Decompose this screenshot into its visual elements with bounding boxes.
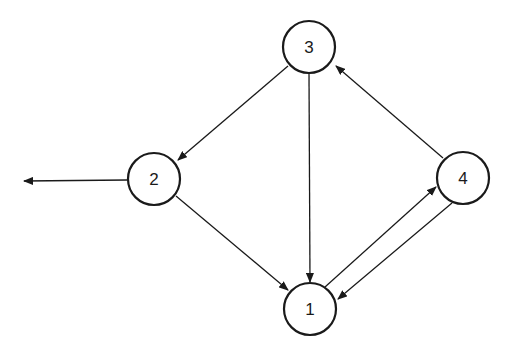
edge-4-to-1 (338, 203, 452, 299)
node-2: 2 (128, 153, 180, 205)
node-4: 4 (437, 152, 489, 204)
node-4-label: 4 (458, 169, 467, 188)
edge-1-to-4 (325, 187, 436, 287)
edge-2-to-1 (176, 196, 288, 290)
node-3: 3 (283, 21, 335, 73)
node-1-label: 1 (305, 300, 314, 319)
edge-3-to-1 (309, 74, 310, 282)
edge-4-to-3 (336, 66, 443, 158)
edge-3-to-2 (178, 66, 288, 160)
graph-svg: 1 2 3 4 (0, 0, 516, 354)
node-2-label: 2 (149, 170, 158, 189)
edge-2-to-outside (24, 180, 127, 181)
node-1: 1 (284, 283, 336, 335)
node-3-label: 3 (304, 38, 313, 57)
graph-diagram: 1 2 3 4 (0, 0, 516, 354)
